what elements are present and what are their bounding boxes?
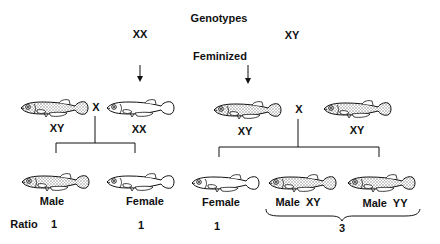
arrow-left (137, 65, 143, 82)
offspring-label-male-xy: Male XY (275, 197, 320, 208)
fish-offspring-male-xy (269, 175, 336, 192)
parent-label-xx: XX (132, 124, 147, 135)
ratio-male: 1 (51, 219, 57, 230)
ratio-label: Ratio (10, 219, 38, 230)
ratio-female-2: 1 (214, 221, 220, 232)
fish-offspring-female-2 (192, 175, 259, 192)
parent-label-xy-3: XY (350, 125, 365, 136)
ratio-female: 1 (138, 220, 144, 231)
parent-label-xy-1: XY (50, 123, 65, 134)
fish-parent-xy-feminized (214, 102, 281, 119)
fish-parent-xx-female (107, 100, 174, 117)
title-genotypes: Genotypes (191, 13, 248, 24)
arrow-right (245, 65, 251, 84)
cross-bracket-left (56, 116, 135, 153)
parent-label-xy-2: XY (238, 126, 253, 137)
cross-symbol-right: X (295, 104, 302, 115)
genotype-xx: XX (133, 29, 148, 40)
curly-brace (266, 209, 420, 221)
fish-parent-xy-male (21, 100, 88, 117)
feminized-label: Feminized (193, 51, 247, 62)
offspring-label-male: Male (40, 196, 64, 207)
ratio-males-grouped: 3 (339, 223, 345, 234)
fish-offspring-male (22, 174, 89, 191)
genotype-xy: XY (285, 30, 300, 41)
offspring-label-female-2: Female (202, 197, 240, 208)
fish-offspring-female (107, 174, 174, 191)
fish-parent-xy-male-2 (324, 101, 391, 118)
offspring-label-female: Female (126, 196, 164, 207)
fish-offspring-male-yy (348, 175, 415, 192)
cross-symbol-left: X (92, 102, 99, 113)
offspring-label-male-yy: Male YY (362, 198, 407, 209)
